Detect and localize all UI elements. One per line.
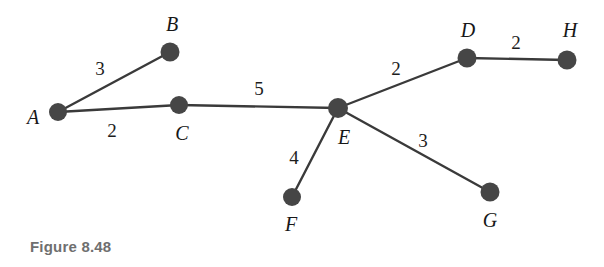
graph-node-a (49, 103, 67, 121)
graph-node-g (481, 183, 500, 202)
graph-edge-c-e (179, 105, 338, 108)
graph-node-b (161, 43, 180, 62)
edge-weight-e-d: 2 (391, 59, 401, 78)
node-label-a: A (27, 107, 39, 127)
graph-node-d (458, 49, 477, 68)
graph-node-c (170, 96, 188, 114)
figure-caption: Figure 8.48 (30, 238, 111, 255)
graph-node-h (558, 51, 577, 70)
graph-edge-e-d (338, 58, 467, 108)
edge-weight-e-g: 3 (418, 131, 428, 150)
edge-weight-c-e: 5 (254, 79, 264, 98)
node-label-e: E (338, 127, 350, 147)
graph-edge-d-h (467, 58, 567, 60)
graph-node-e (328, 98, 348, 118)
edge-weight-a-c: 2 (107, 121, 117, 140)
graph-edge-e-g (338, 108, 490, 192)
node-label-h: H (563, 20, 577, 40)
edge-weight-a-b: 3 (95, 59, 105, 78)
graph-edge-a-b (58, 52, 170, 112)
node-layer (49, 43, 577, 207)
node-label-g: G (483, 210, 497, 230)
node-label-f: F (285, 214, 297, 234)
edge-layer (58, 52, 567, 197)
edge-weight-e-f: 4 (289, 148, 299, 167)
graph-edge-a-c (58, 105, 179, 112)
node-label-d: D (461, 20, 475, 40)
node-label-c: C (175, 123, 188, 143)
node-label-b: B (166, 14, 178, 34)
figure-canvas: ABCDEFGH 3252243 Figure 8.48 (0, 0, 604, 267)
graph-node-f (283, 188, 301, 206)
edge-weight-d-h: 2 (511, 33, 521, 52)
